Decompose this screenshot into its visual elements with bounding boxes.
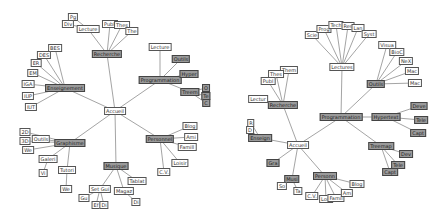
tree-node[interactable]: DES [37, 51, 51, 59]
tree-edge [376, 45, 387, 84]
tree-node[interactable]: Treem [180, 88, 199, 96]
tree-node[interactable]: Tutori [58, 166, 76, 174]
tree-node[interactable]: Di [131, 198, 140, 206]
left-hyperbolic-tree: EnseignementRechercheProgrammationGraphi… [0, 0, 222, 222]
tree-node[interactable]: We [60, 185, 72, 193]
tree-node[interactable]: Blog [349, 180, 364, 188]
tree-node[interactable]: Galeri [39, 155, 58, 163]
tree-node[interactable]: ER [31, 59, 42, 67]
tree-node[interactable]: Programmation [320, 113, 363, 121]
tree-node[interactable]: O [202, 84, 210, 92]
tree-node[interactable]: Syst [362, 30, 377, 38]
tree-node[interactable]: Publ [261, 77, 276, 85]
tree-node[interactable]: C.V. [157, 168, 170, 176]
tree-node[interactable]: Tablat [128, 177, 147, 185]
tree-node[interactable]: Div [62, 20, 74, 28]
tree-node[interactable]: C [202, 99, 210, 107]
tree-node[interactable]: Di [99, 201, 108, 209]
tree-node[interactable]: Lectur [248, 95, 268, 103]
tree-node[interactable]: C.V. [305, 192, 318, 200]
tree-node[interactable]: NeX [399, 57, 413, 65]
tree-node[interactable]: So [277, 182, 287, 190]
tree-node[interactable]: Gu [78, 194, 89, 202]
tree-node[interactable]: Dev [399, 150, 413, 158]
tree-root-node[interactable]: Accueil [104, 107, 126, 115]
tree-node[interactable]: Musique [104, 162, 129, 170]
tree-node[interactable]: Ami [184, 133, 198, 141]
tree-node[interactable]: Personn [313, 172, 337, 180]
tree-node[interactable]: Recherche [268, 101, 298, 109]
tree-node[interactable]: Hyper [179, 70, 198, 78]
tree-node[interactable]: Am [341, 189, 353, 197]
tree-node[interactable]: IUP [22, 92, 34, 100]
tree-edge [341, 67, 342, 117]
right-hyperbolic-tree: RechercheProgrammationEnseignGraMusiPers… [222, 0, 444, 222]
tree-node[interactable]: Capt [410, 129, 426, 137]
tree-node[interactable]: Personnel [146, 135, 174, 143]
tree-node[interactable]: Vi [39, 169, 48, 177]
tree-edge [292, 145, 298, 179]
tree-node[interactable]: Loisir [171, 159, 188, 167]
tree-root-node[interactable]: Accueil [287, 141, 309, 149]
tree-node[interactable]: Outils [32, 135, 50, 143]
tree-node[interactable]: D [246, 126, 254, 134]
tree-node[interactable]: 3D [19, 137, 30, 145]
tree-node[interactable]: BioC [389, 48, 404, 56]
tree-node[interactable]: IUT [25, 103, 37, 111]
tree-node[interactable]: Blog [182, 122, 197, 130]
tree-node[interactable]: Treemap [368, 142, 394, 150]
tree-node[interactable]: EM [27, 69, 38, 77]
tree-node[interactable]: Hypertext [372, 113, 401, 121]
tree-node[interactable]: Lectures [329, 63, 354, 71]
tree-node[interactable]: Magaz [114, 187, 134, 195]
tree-edge [115, 111, 116, 166]
tree-edge [55, 48, 65, 88]
tree-node[interactable]: Programmation [139, 76, 182, 84]
edges-layer [222, 0, 444, 222]
tree-node[interactable]: Graphisme [54, 139, 85, 147]
tree-node[interactable]: Enseignement [45, 84, 85, 92]
tree-node[interactable]: Outils [367, 80, 385, 88]
tree-node[interactable]: Recherche [92, 50, 122, 58]
tree-node[interactable]: Mac [405, 67, 419, 75]
tree-node[interactable]: Mac [408, 79, 422, 87]
tree-node[interactable]: Ta [293, 187, 302, 195]
tree-node[interactable]: IGA [22, 80, 35, 88]
tree-edge [283, 105, 298, 145]
tree-node[interactable]: Gra [267, 159, 280, 167]
tree-node[interactable]: Capt [382, 168, 398, 176]
tree-edge [342, 28, 358, 67]
tree-node[interactable]: Enseign [248, 134, 272, 142]
tree-node[interactable]: The [125, 27, 138, 35]
tree-node[interactable]: Outils [172, 55, 190, 63]
tree-node[interactable]: Lecture [77, 25, 100, 33]
tree-node[interactable]: Deve [411, 102, 428, 110]
tree-edge [107, 54, 115, 111]
tree-node[interactable]: Famill [178, 143, 197, 151]
tree-node[interactable]: Set Gui [89, 185, 111, 193]
tree-node[interactable]: We [22, 146, 34, 154]
tree-node[interactable]: Lecture [149, 43, 172, 51]
tree-node[interactable]: 2D [19, 128, 30, 136]
tree-node[interactable]: Tele [414, 116, 428, 124]
